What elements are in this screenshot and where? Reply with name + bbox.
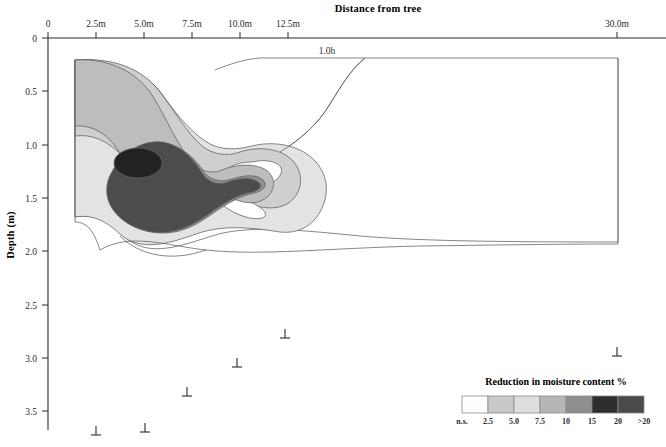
legend-tick-label-1: 2.5 [483, 417, 493, 426]
legend: Reduction in moisture content % n.s.2.55… [456, 376, 650, 426]
figure-container: 02.5m5.0m7.5m10.0m12.5m30.0m 00.51.01.52… [0, 0, 666, 447]
contour-field [75, 58, 618, 249]
legend-tick-label-3: 7.5 [535, 417, 545, 426]
contour-line-top-left-rise [215, 58, 260, 70]
y-axis-title: Depth (m) [5, 211, 17, 259]
y-tick-label-0: 0 [32, 34, 37, 44]
contour-core-max [114, 148, 162, 178]
access-tube-marker-2 [182, 387, 192, 396]
x-tick-label-0: 0 [46, 19, 51, 29]
legend-swatch-5 [592, 396, 618, 413]
x-tick-label-5: 12.5m [276, 19, 301, 29]
access-tube-marker-4 [280, 329, 290, 338]
x-tick-label-6: 30.0m [605, 19, 630, 29]
access-tube-marker-0 [91, 426, 101, 435]
legend-swatch-2 [514, 396, 540, 413]
x-axis-ticks: 02.5m5.0m7.5m10.0m12.5m30.0m [46, 19, 630, 38]
legend-title: Reduction in moisture content % [485, 376, 626, 387]
y-tick-label-6: 3.0 [25, 354, 37, 364]
legend-tick-label-4: 10 [562, 417, 570, 426]
x-tick-label-3: 7.5m [182, 19, 202, 29]
legend-tick-label-7: >20 [638, 417, 651, 426]
legend-swatch-1 [488, 396, 514, 413]
top-axis-title: Distance from tree [335, 3, 422, 14]
x-tick-label-2: 5.0m [134, 19, 154, 29]
access-tube-marker-5 [612, 347, 622, 356]
y-tick-label-7: 3.5 [25, 407, 37, 417]
y-tick-label-2: 1.0 [25, 141, 37, 151]
y-tick-label-1: 0.5 [25, 87, 37, 97]
x-tick-label-4: 10.0m [228, 19, 253, 29]
legend-swatch-6 [618, 396, 644, 413]
legend-swatch-3 [540, 396, 566, 413]
inline-annotation-1_0h: 1.0h [319, 46, 336, 56]
contour-line-lower-left-tail [75, 222, 100, 250]
legend-tick-label-5: 15 [588, 417, 596, 426]
y-tick-label-3: 1.5 [25, 194, 37, 204]
access-tube-marker-3 [232, 358, 242, 367]
legend-tick-label-2: 5.0 [509, 417, 519, 426]
legend-swatch-row [462, 396, 644, 413]
contour-figure: 02.5m5.0m7.5m10.0m12.5m30.0m 00.51.01.52… [0, 0, 666, 447]
legend-swatch-0 [462, 396, 488, 413]
legend-tick-row: n.s.2.55.07.5101520>20 [456, 417, 650, 426]
legend-tick-label-0: n.s. [456, 417, 468, 426]
access-tube-marker-1 [140, 423, 150, 432]
legend-swatch-4 [566, 396, 592, 413]
legend-tick-label-6: 20 [614, 417, 622, 426]
y-tick-label-5: 2.5 [25, 301, 37, 311]
x-tick-label-1: 2.5m [86, 19, 106, 29]
y-axis-ticks: 00.51.01.52.02.53.03.5 [25, 34, 48, 417]
y-tick-label-4: 2.0 [25, 247, 37, 257]
